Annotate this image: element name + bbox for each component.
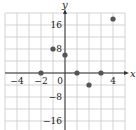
x-tick-label: −4 xyxy=(10,76,24,86)
data-point xyxy=(98,70,103,75)
y-tick-label: 16 xyxy=(51,20,63,30)
data-point xyxy=(50,46,55,51)
data-point xyxy=(86,82,91,87)
x-tick-label: 4 xyxy=(110,76,116,86)
x-tick-label: 0 xyxy=(57,76,63,86)
x-axis-arrow-icon xyxy=(124,71,129,75)
data-point xyxy=(110,16,115,21)
y-tick-label: 8 xyxy=(56,44,62,54)
axes xyxy=(5,9,129,130)
data-point xyxy=(74,70,79,75)
x-axis-label: x xyxy=(130,68,136,79)
y-tick-label: −16 xyxy=(43,116,62,126)
y-tick-label: −8 xyxy=(49,92,63,102)
y-axis-label: y xyxy=(61,0,68,10)
scatter-plot: −4−204168−8−16 x y xyxy=(0,0,136,130)
data-point xyxy=(38,70,43,75)
x-tick-label: −2 xyxy=(34,76,47,86)
data-point xyxy=(62,52,67,57)
